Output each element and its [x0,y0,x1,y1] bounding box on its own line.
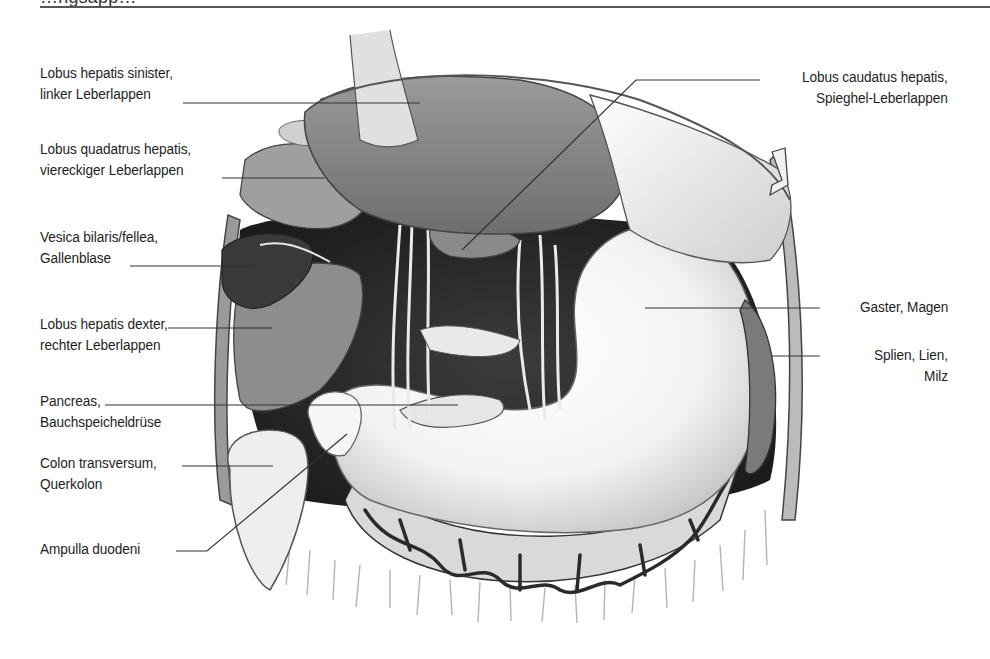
label-gaster: Gaster, Magen [860,296,948,317]
label-colon-transversum: Colon transversum, Querkolon [40,452,157,494]
label-lobus-hepatis-sinister: Lobus hepatis sinister, linker Leberlapp… [40,62,173,104]
label-lobus-quadratus: Lobus quadatrus hepatis, viereckiger Leb… [40,138,191,180]
label-ampulla-duodeni: Ampulla duodeni [40,538,140,559]
label-lobus-caudatus: Lobus caudatus hepatis, Spieghel-Leberla… [802,66,948,108]
transverse-colon [228,430,308,590]
anatomy-figure: …ngsapp… [0,0,990,659]
label-lobus-hepatis-dexter: Lobus hepatis dexter, rechter Leberlappe… [40,313,168,355]
label-vesica-bilaris: Vesica bilaris/fellea, Gallenblase [40,226,158,268]
label-splien: Splien, Lien, Milz [874,344,948,386]
label-pancreas: Pancreas, Bauchspeicheldrüse [40,390,161,432]
